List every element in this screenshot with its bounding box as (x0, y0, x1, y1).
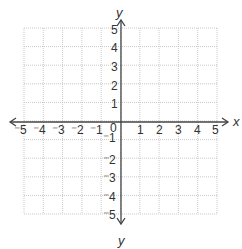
x-tick-labels-positive: 1 2 3 4 5 (137, 123, 219, 137)
x-tick-label: 1 (137, 123, 144, 137)
coordinate-plane: x y y 0 ⁻5 ⁻4 ⁻3 ⁻2 ⁻1 1 2 3 4 5 5 4 3 2… (0, 0, 242, 249)
y-tick-label: ⁻2 (103, 153, 116, 167)
y-tick-labels-negative: ⁻1 ⁻2 ⁻3 ⁻4 ⁻5 (103, 131, 116, 222)
x-tick-label: 2 (156, 123, 163, 137)
y-tick-label: ⁻3 (103, 171, 116, 185)
x-tick-label: ⁻3 (52, 123, 65, 137)
y-tick-label: 4 (111, 41, 118, 55)
y-tick-label: 2 (111, 79, 118, 93)
y-tick-label: ⁻5 (103, 208, 116, 222)
y-tick-label: ⁻1 (103, 131, 116, 145)
y-tick-label: ⁻4 (103, 190, 116, 204)
x-tick-label: 4 (194, 123, 201, 137)
x-tick-label: 3 (175, 123, 182, 137)
x-tick-label: ⁻5 (14, 123, 27, 137)
y-tick-labels-positive: 5 4 3 2 1 (111, 23, 118, 111)
x-axis-label: x (232, 114, 240, 129)
x-tick-label: ⁻1 (90, 123, 103, 137)
y-tick-label: 1 (111, 97, 118, 111)
y-tick-label: 5 (111, 23, 118, 37)
y-tick-label: 3 (111, 60, 118, 74)
y-axis-label-bottom: y (117, 233, 126, 248)
x-tick-label: 5 (212, 123, 219, 137)
y-axis-label-top: y (115, 5, 124, 20)
x-tick-labels-negative: ⁻5 ⁻4 ⁻3 ⁻2 ⁻1 (14, 123, 103, 137)
x-tick-label: ⁻4 (33, 123, 46, 137)
x-tick-label: ⁻2 (71, 123, 84, 137)
